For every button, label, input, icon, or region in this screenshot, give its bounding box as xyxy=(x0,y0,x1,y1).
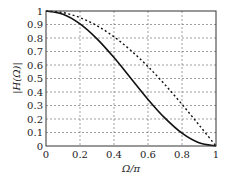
y-tick-label: 1 xyxy=(37,6,43,17)
x-tick-label: 1 xyxy=(213,149,219,160)
x-tick-labels: 00.20.40.60.81 xyxy=(43,149,219,160)
magnitude-response-chart: 00.10.20.30.40.50.60.70.80.91 00.20.40.6… xyxy=(0,0,229,176)
y-tick-label: 0.9 xyxy=(27,19,43,30)
x-tick-label: 0.6 xyxy=(140,149,156,160)
x-tick-label: 0.8 xyxy=(174,149,190,160)
y-tick-label: 0.6 xyxy=(27,60,43,71)
x-tick-label: 0.4 xyxy=(106,149,122,160)
y-tick-label: 0.3 xyxy=(27,100,43,111)
y-tick-labels: 00.10.20.30.40.50.60.70.80.91 xyxy=(27,6,43,152)
x-tick-label: 0 xyxy=(43,149,49,160)
y-axis-label: |H(Ω)| xyxy=(11,62,23,94)
y-tick-label: 0.5 xyxy=(27,73,43,84)
y-tick-label: 0.8 xyxy=(27,33,43,44)
y-tick-label: 0.4 xyxy=(27,87,43,98)
x-tick-label: 0.2 xyxy=(72,149,88,160)
y-tick-label: 0.2 xyxy=(27,114,43,125)
y-tick-label: 0.1 xyxy=(27,127,43,138)
y-tick-label: 0.7 xyxy=(27,46,43,57)
x-axis-label: Ω/π xyxy=(121,163,141,174)
